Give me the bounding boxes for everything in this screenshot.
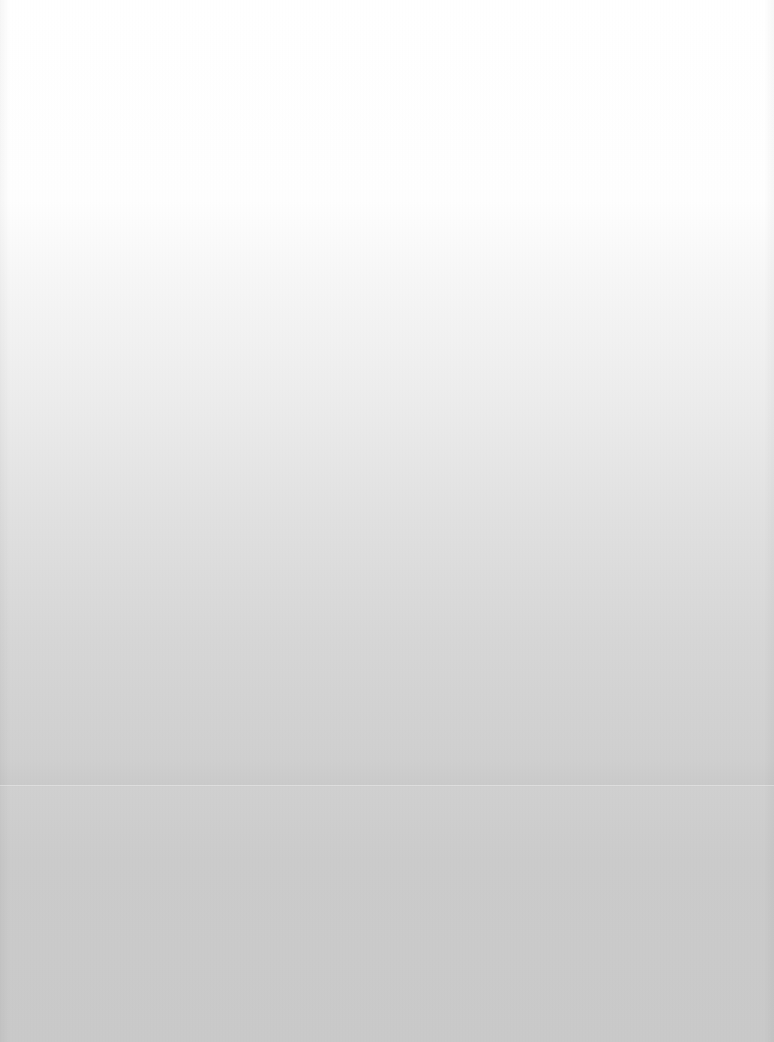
right-edge-shade bbox=[764, 0, 774, 1042]
horizontal-seam-line bbox=[0, 785, 774, 786]
blank-screen-canvas bbox=[0, 0, 774, 1042]
left-edge-shade bbox=[0, 0, 10, 1042]
background-noise-texture bbox=[0, 0, 774, 1042]
